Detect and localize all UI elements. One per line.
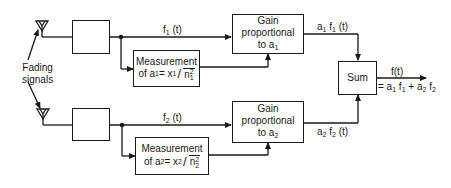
receiver-box-1 [72,20,110,54]
gain-1-line2: proportional [242,27,295,39]
sum-box: Sum [338,61,377,95]
fading-label-line1: Fading [22,62,53,74]
gain-box-2: Gain proportional to a2 [232,101,304,143]
fading-signals-label: Fading signals [22,62,53,86]
output-label-a2f2: a2 f2 (t) [317,126,348,140]
sum-label: Sum [347,72,368,84]
gain-1-line1: Gain [257,15,278,27]
measurement-formula-1: of a1 = x1/n21 [138,68,194,81]
measurement-title-2: Measurement [141,143,202,155]
output-label-a1f1: a1 f1 (t) [317,21,348,35]
antenna-icon-bottom [37,109,49,125]
output-label-sum-eq: = a1 f1 + a2 f2 [378,81,436,95]
fading-label-line2: signals [22,74,53,86]
signal-label-f1: f1 (t) [163,24,182,38]
signal-label-f2: f2 (t) [163,112,182,126]
receiver-box-2 [72,108,110,141]
antenna-icon-top [36,21,48,37]
output-label-ft: f(t) [391,66,403,77]
gain-2-line1: Gain [257,103,278,115]
gain-2-line3: to a2 [258,127,279,142]
measurement-box-2: Measurement of a2 = x2/n22 [135,137,209,175]
gain-2-line2: proportional [242,115,295,127]
gain-1-line3: to a1 [258,39,279,54]
gain-box-1: Gain proportional to a1 [232,14,304,54]
measurement-box-1: Measurement of a1 = x1/n21 [133,50,200,87]
measurement-formula-2: of a2 = x2/n22 [144,155,200,168]
measurement-title-1: Measurement [136,56,197,68]
